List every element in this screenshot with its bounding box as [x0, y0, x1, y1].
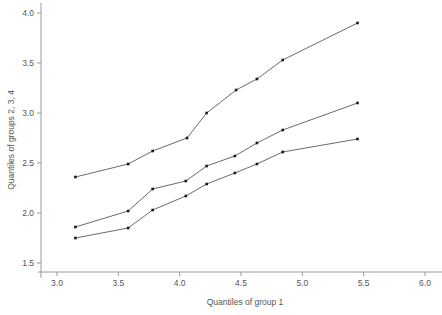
data-point-marker	[127, 163, 130, 166]
data-point-marker	[74, 226, 77, 229]
data-point-marker	[151, 188, 154, 191]
data-series	[74, 22, 359, 179]
y-axis: 1.52.02.53.03.54.0	[22, 3, 41, 278]
x-tick-label: 3.5	[112, 278, 124, 288]
y-tick-label: 4.0	[22, 8, 34, 18]
data-point-marker	[281, 59, 284, 62]
data-point-marker	[185, 195, 188, 198]
data-point-marker	[74, 176, 77, 179]
data-point-marker	[186, 137, 189, 140]
y-tick-label: 1.5	[22, 258, 34, 268]
series-polyline	[75, 103, 357, 227]
y-tick-label: 2.0	[22, 208, 34, 218]
data-point-marker	[74, 237, 77, 240]
data-point-marker	[151, 209, 154, 212]
data-point-marker	[205, 112, 208, 115]
data-point-marker	[356, 22, 359, 25]
data-point-marker	[281, 129, 284, 132]
qq-plot-chart: 1.52.02.53.03.54.0 3.03.54.04.55.05.56.0…	[0, 0, 442, 315]
plot-canvas: 1.52.02.53.03.54.0 3.03.54.04.55.05.56.0…	[0, 0, 442, 315]
data-point-marker	[234, 155, 237, 158]
data-point-marker	[205, 183, 208, 186]
x-tick-label: 4.0	[174, 278, 186, 288]
data-point-marker	[127, 227, 130, 230]
y-tick-label: 3.0	[22, 108, 34, 118]
y-tick-label: 3.5	[22, 58, 34, 68]
x-tick-label: 6.0	[419, 278, 431, 288]
x-axis-title: Quantiles of group 1	[207, 297, 284, 307]
data-point-marker	[356, 102, 359, 105]
data-point-marker	[281, 151, 284, 154]
data-point-marker	[151, 150, 154, 153]
x-tick-label: 5.5	[358, 278, 370, 288]
data-point-marker	[127, 210, 130, 213]
series-polyline	[75, 23, 357, 177]
data-point-marker	[256, 142, 259, 145]
data-series-group	[74, 22, 359, 240]
data-point-marker	[256, 78, 259, 81]
data-series	[74, 138, 359, 240]
data-series	[74, 102, 359, 229]
x-tick-label: 3.0	[51, 278, 63, 288]
x-tick-label: 4.5	[235, 278, 247, 288]
data-point-marker	[205, 165, 208, 168]
x-tick-label: 5.0	[296, 278, 308, 288]
data-point-marker	[234, 172, 237, 175]
series-polyline	[75, 139, 357, 238]
y-tick-label: 2.5	[22, 158, 34, 168]
data-point-marker	[356, 138, 359, 141]
x-axis: 3.03.54.04.55.05.56.0	[38, 272, 442, 288]
y-axis-title: Quantiles of groups 2, 3, 4	[6, 90, 16, 190]
data-point-marker	[185, 180, 188, 183]
data-point-marker	[235, 89, 238, 92]
data-point-marker	[256, 163, 259, 166]
